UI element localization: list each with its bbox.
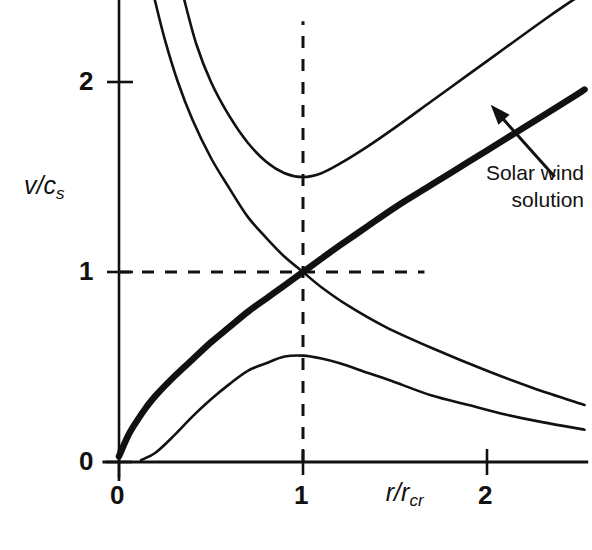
x-axis-title-main: r/r (386, 478, 410, 506)
y-tick-label-1: 1 (79, 258, 93, 284)
x-axis-title-subscript: cr (409, 491, 423, 510)
curve-supersonic-branch (183, 0, 579, 177)
y-axis-title-main: v/c (24, 171, 56, 199)
x-tick-label-2: 2 (478, 482, 492, 508)
y-tick-label-0: 0 (79, 448, 93, 474)
solar-wind-solution-figure: 2 1 0 0 1 2 v/cs r/rcr Solar wind soluti… (0, 0, 592, 550)
annotation-line-2: solution (438, 187, 584, 214)
solar-wind-annotation: Solar wind solution (438, 160, 584, 214)
annotation-line-1: Solar wind (438, 160, 584, 187)
x-axis-title: r/rcr (386, 480, 424, 505)
y-axis-title-subscript: s (56, 184, 65, 203)
x-tick-label-1: 1 (294, 482, 308, 508)
curve-subsonic-breeze-branch (141, 355, 584, 460)
solution-curves (119, 0, 585, 460)
y-tick-label-2: 2 (79, 68, 93, 94)
critical-guide-lines (119, 21, 424, 462)
x-tick-label-0: 0 (110, 482, 124, 508)
y-axis-title: v/cs (24, 173, 64, 198)
